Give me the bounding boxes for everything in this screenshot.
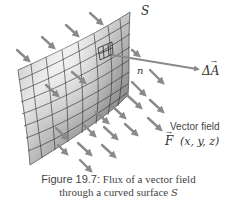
curved-surface-s [18,12,130,165]
area-vector-label: ΔA [201,64,220,78]
normal-label: n [137,65,143,76]
caption-text-1: Flux of a vector field [100,173,196,185]
area-vector-arrow: → [211,58,217,66]
caption-line-1: Figure 19.7: Flux of a vector field [0,173,237,186]
figure-caption: Figure 19.7: Flux of a vector field thro… [0,173,237,199]
caption-text-2: through a curved surface [59,186,171,198]
surface-label: S [141,4,149,18]
caption-line-2: through a curved surface S [0,186,237,199]
figure-number: Figure 19.7: [41,173,100,185]
caption-math-s: S [171,187,178,198]
vector-field-args: (x, y, z) [180,135,219,148]
vector-field-title: Vector field [170,121,219,132]
vector-field-symbol-arrow: → [166,129,172,137]
